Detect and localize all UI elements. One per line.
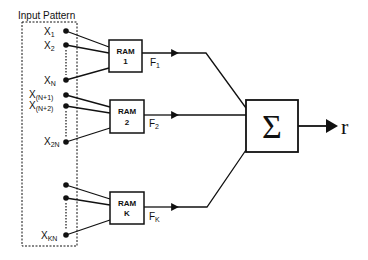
ram-box — [110, 100, 144, 133]
input-label: X2N — [44, 136, 60, 148]
input-group-2: X(N+1) X(N+2) X2N — [29, 89, 110, 148]
ram-1-node: RAM 1 F1 — [109, 40, 246, 108]
sigma-icon: Σ — [262, 108, 282, 145]
input-pattern-box — [22, 22, 77, 246]
input-label: X(N+2) — [29, 100, 53, 113]
ram-box — [110, 192, 144, 224]
ram-index: K — [124, 209, 130, 218]
connection-line — [66, 220, 110, 235]
connection-line — [66, 31, 109, 47]
ram-output-label: FK — [149, 211, 160, 223]
connection-line — [66, 106, 110, 113]
connection-line — [66, 68, 109, 80]
summation-node: Σ — [246, 100, 298, 152]
ram-2-node: RAM 2 F2 — [110, 100, 246, 133]
connection-line — [66, 95, 110, 107]
connection-line — [66, 185, 110, 199]
output-line — [172, 150, 246, 207]
connection-line — [66, 198, 110, 205]
connection-line — [66, 45, 109, 53]
input-label: X2 — [44, 40, 55, 52]
ram-label: RAM — [116, 47, 135, 56]
input-group-k: XKN — [41, 182, 110, 242]
ram-index: 1 — [123, 57, 128, 66]
ram-box — [109, 40, 142, 72]
ram-output-label: F1 — [150, 57, 160, 69]
ram-output-label: F2 — [149, 118, 159, 130]
ram-label: RAM — [118, 199, 137, 208]
ram-k-node: RAM K FK — [110, 150, 246, 224]
connection-line — [66, 128, 110, 142]
ram-label: RAM — [118, 107, 137, 116]
input-label: XKN — [41, 230, 57, 242]
input-label: X1 — [44, 26, 55, 38]
input-pattern-title: Input Pattern — [18, 10, 75, 21]
final-output-arrow-icon — [326, 119, 338, 133]
ram-index: 2 — [125, 118, 130, 127]
output-line — [172, 53, 246, 108]
output-label: r — [341, 114, 349, 139]
ram-network-diagram: Input Pattern X1 X2 XN X(N+1) X(N+2) X2N… — [0, 0, 368, 260]
input-label: XN — [44, 75, 56, 87]
